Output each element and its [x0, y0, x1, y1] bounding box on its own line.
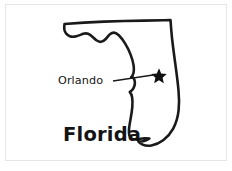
florida-state-label: Florida: [63, 123, 141, 146]
florida-map-svg: Orlando Florida: [0, 0, 232, 171]
figure-root: Orlando Florida: [0, 0, 232, 171]
orlando-city-label: Orlando: [58, 74, 103, 87]
